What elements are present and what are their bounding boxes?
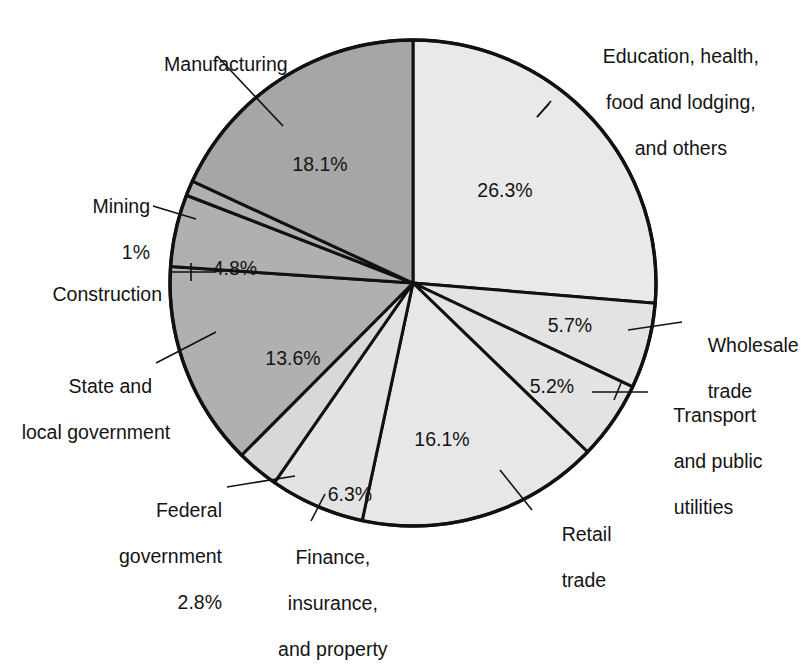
label-federal-line2: government	[119, 545, 222, 567]
label-manufacturing: Manufacturing	[60, 30, 370, 99]
value-construction: 4.8%	[195, 257, 275, 279]
label-education-line1: Education, health,	[603, 45, 759, 67]
label-retail-line1: Retail	[562, 523, 612, 545]
value-finance: 6.3%	[310, 483, 390, 505]
label-finance-line2: insurance,	[288, 592, 378, 614]
label-education-line3: and others	[635, 137, 727, 159]
label-finance: Finance, insurance, and property	[232, 523, 412, 664]
label-state-local-line1: State and	[69, 375, 152, 397]
value-transport: 5.2%	[512, 375, 592, 397]
label-transport-line2: and public	[674, 450, 763, 472]
value-education: 26.3%	[460, 179, 550, 201]
label-construction-text: Construction	[53, 283, 162, 305]
label-transport-line1: Transport	[673, 404, 756, 426]
label-federal-line1: Federal	[156, 499, 222, 521]
label-retail-line2: trade	[562, 569, 606, 591]
label-finance-line3: and property	[278, 638, 388, 660]
label-mining-line1: Mining	[93, 195, 150, 217]
value-state-local: 13.6%	[247, 347, 339, 369]
label-federal-line3: 2.8%	[178, 591, 222, 613]
label-transport: Transport and public utilities	[652, 381, 802, 542]
value-wholesale: 5.7%	[530, 314, 610, 336]
label-federal: Federal government 2.8%	[0, 476, 222, 637]
label-education-line2: food and lodging,	[606, 91, 756, 113]
label-state-local: State and local government	[0, 352, 152, 467]
value-retail: 16.1%	[396, 428, 488, 450]
label-transport-line3: utilities	[674, 496, 734, 518]
label-finance-line1: Finance,	[295, 546, 370, 568]
label-state-local-line2: local government	[22, 421, 171, 443]
label-manufacturing-text: Manufacturing	[164, 53, 288, 75]
label-wholesale-line1: Wholesale	[708, 334, 799, 356]
label-education: Education, health, food and lodging, and…	[545, 22, 795, 183]
value-manufacturing: 18.1%	[275, 153, 365, 175]
label-construction: Construction	[0, 260, 162, 329]
